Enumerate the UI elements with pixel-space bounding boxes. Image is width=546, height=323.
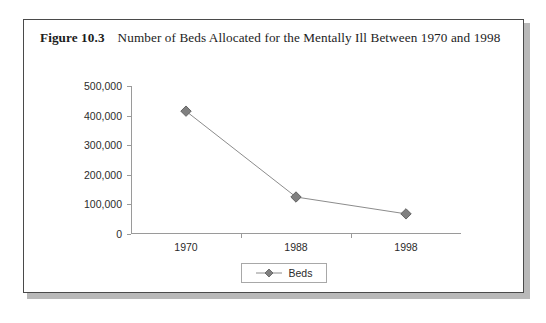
chart-plot-area: 0100,000200,000300,000400,000500,000 197… <box>131 86 461 234</box>
y-axis-tick <box>127 234 131 235</box>
x-axis-tick-label: 1970 <box>174 241 197 253</box>
series-beds <box>131 86 461 234</box>
y-axis-tick-label: 400,000 <box>84 110 122 122</box>
y-axis-tick-label: 500,000 <box>84 80 122 92</box>
legend-marker-icon <box>256 268 282 278</box>
figure-number: Figure 10.3 <box>40 30 105 45</box>
legend-label-beds: Beds <box>289 267 313 279</box>
figure-caption-text: Number of Beds Allocated for the Mentall… <box>118 30 501 45</box>
x-axis-tick-label: 1988 <box>284 241 307 253</box>
chart-legend: Beds <box>241 263 327 283</box>
figure-caption: Figure 10.3Number of Beds Allocated for … <box>40 30 513 50</box>
diamond-marker <box>291 192 301 202</box>
y-axis-tick-label: 200,000 <box>84 169 122 181</box>
diamond-marker <box>401 209 411 219</box>
figure-screenshot: Figure 10.3Number of Beds Allocated for … <box>0 0 546 323</box>
x-axis-tick-label: 1998 <box>394 241 417 253</box>
x-axis-tick <box>241 234 242 238</box>
y-axis-tick-label: 100,000 <box>84 198 122 210</box>
y-axis-tick-label: 300,000 <box>84 139 122 151</box>
diamond-marker <box>181 106 191 116</box>
x-axis-tick <box>351 234 352 238</box>
figure-frame: Figure 10.3Number of Beds Allocated for … <box>23 19 524 293</box>
y-axis-tick-label: 0 <box>116 228 122 240</box>
